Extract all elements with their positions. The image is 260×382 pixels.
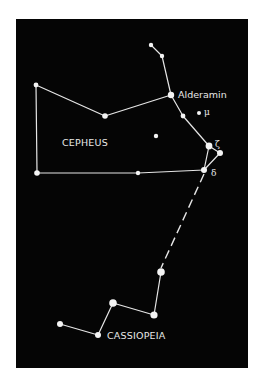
star-epsilon	[217, 150, 223, 156]
star-mu	[197, 111, 201, 115]
star-chart: Alderamin μ ζ δ CEPHEUS CASSIOPEIA	[0, 0, 260, 382]
alderamin-label: Alderamin	[178, 89, 227, 100]
star-alderamin	[168, 92, 174, 98]
star-cas-5	[57, 321, 63, 327]
star-cas-2	[150, 311, 157, 318]
star-c-loose	[154, 134, 158, 138]
star-c-mid-bot	[136, 171, 140, 175]
delta-label: δ	[211, 168, 216, 178]
star-c-mid	[181, 114, 186, 119]
mu-label: μ	[204, 107, 210, 117]
star-cas-3	[109, 299, 117, 307]
star-zeta	[206, 143, 213, 150]
zeta-label: ζ	[215, 139, 220, 149]
star-c-top2	[160, 54, 164, 58]
star-cas-4	[95, 332, 101, 338]
star-c-mid-top	[102, 113, 108, 119]
cepheus-label: CEPHEUS	[62, 137, 108, 148]
sky-panel	[16, 19, 248, 368]
star-cas-1	[157, 268, 165, 276]
star-delta	[201, 167, 207, 173]
star-c-top	[149, 43, 153, 47]
star-c-left-bot	[34, 170, 40, 176]
star-c-left-top	[34, 83, 39, 88]
cassiopeia-label: CASSIOPEIA	[107, 330, 166, 341]
